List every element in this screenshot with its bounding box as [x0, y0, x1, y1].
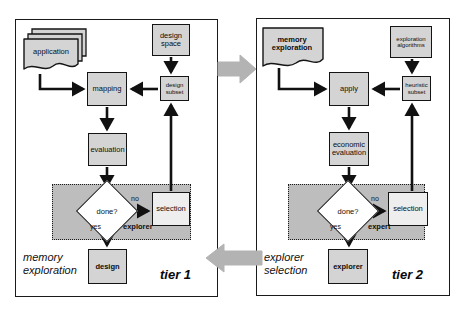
diagram-canvas: application design space mapping design …	[0, 0, 464, 312]
node-memory-exploration-label-2: exploration	[257, 44, 327, 52]
node-evaluation-label: evaluation	[90, 146, 124, 154]
node-heuristic-subset-label-2: subset	[405, 89, 427, 95]
caption-tier1: memory exploration	[23, 251, 77, 276]
node-selection-tier1[interactable]: selection	[152, 192, 190, 226]
node-design-label: design	[95, 263, 119, 271]
node-economic-evaluation[interactable]: economic evaluation	[329, 132, 369, 166]
node-application-label: application	[14, 48, 88, 56]
tier-label-1: tier 1	[160, 267, 191, 282]
node-mapping-label: mapping	[93, 85, 122, 93]
edge-label-yes-tier2: yes	[330, 223, 341, 230]
node-explorer-label: explorer	[333, 263, 363, 271]
node-apply-label: apply	[340, 85, 358, 93]
edge-label-no-tier2: no	[371, 195, 379, 202]
node-exploration-algorithms-label-2: algorithms	[396, 42, 425, 48]
node-design-space-label-2: space	[160, 40, 182, 48]
node-economic-evaluation-label-2: evaluation	[332, 149, 366, 157]
node-design-space[interactable]: design space	[152, 24, 190, 56]
region-expert-label: expert	[368, 222, 391, 231]
node-memory-exploration[interactable]: memory exploration	[261, 26, 333, 76]
node-heuristic-subset[interactable]: heuristic subset	[402, 76, 431, 101]
node-design-subset[interactable]: design subset	[160, 76, 189, 101]
node-design-subset-label-2: subset	[166, 89, 184, 95]
node-design[interactable]: design	[88, 249, 127, 284]
node-apply[interactable]: apply	[329, 72, 369, 106]
node-mapping[interactable]: mapping	[87, 72, 127, 106]
caption-tier2: explorer selection	[264, 251, 307, 276]
node-exploration-algorithms[interactable]: exploration algorithms	[390, 26, 432, 58]
node-application[interactable]: application	[22, 26, 96, 76]
node-selection-tier2[interactable]: selection	[388, 192, 428, 226]
caption-tier1-line1: memory	[23, 251, 77, 264]
node-design-subset-label-1: design	[166, 82, 184, 88]
caption-tier2-line1: explorer	[264, 251, 307, 264]
node-selection-label: selection	[156, 205, 186, 213]
region-explorer-label: explorer	[123, 222, 153, 231]
node-selection-label-tier2: selection	[393, 205, 423, 213]
tier-label-2: tier 2	[392, 267, 423, 282]
node-evaluation[interactable]: evaluation	[88, 133, 127, 166]
node-heuristic-subset-label-1: heuristic	[405, 82, 427, 88]
edge-label-yes-tier1: yes	[90, 223, 101, 230]
edge-label-no-tier1: no	[131, 195, 139, 202]
caption-tier1-line2: exploration	[23, 264, 77, 277]
node-memory-exploration-label: memory exploration	[257, 36, 327, 52]
caption-tier2-line2: selection	[264, 264, 307, 277]
node-explorer[interactable]: explorer	[328, 249, 368, 284]
